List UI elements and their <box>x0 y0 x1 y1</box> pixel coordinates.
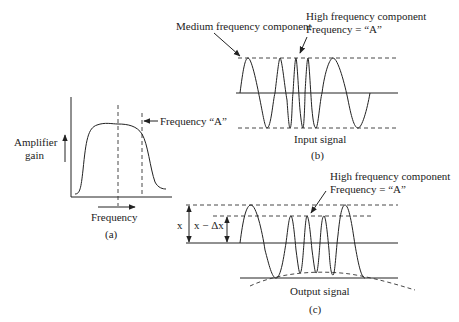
high-frequency-label-c-2: Frequency = “A” <box>330 183 406 195</box>
x-minus-delta-x-label: x − Δx <box>194 219 224 231</box>
x-label: x <box>177 219 183 231</box>
gain-curve <box>75 123 166 194</box>
panel-c-caption: (c) <box>309 303 322 316</box>
medium-frequency-label: Medium frequency component <box>176 20 312 32</box>
high-frequency-label-b-2: Frequency = “A” <box>306 23 382 35</box>
panel-b-caption: (b) <box>311 149 324 162</box>
panel-b-input-signal <box>214 33 398 128</box>
high-frequency-label-c-1: High frequency component <box>330 170 450 182</box>
input-signal-label: Input signal <box>294 133 346 145</box>
high-component-arrow-c-icon <box>311 191 326 213</box>
frequency-a-label: Frequency “A” <box>160 115 227 127</box>
amplifier-gain-label-1: Amplifier <box>14 136 58 148</box>
frequency-axis-label: Frequency <box>91 211 138 223</box>
high-frequency-label-b-1: High frequency component <box>306 10 426 22</box>
panel-c-output-signal <box>186 191 415 290</box>
amplifier-gain-label-2: gain <box>25 149 44 161</box>
output-signal-label: Output signal <box>290 285 350 297</box>
panel-a-caption: (a) <box>105 228 118 241</box>
medium-component-arrow-icon <box>214 33 240 56</box>
high-component-arrow-icon <box>300 37 307 53</box>
amplifier-frequency-diagram: Frequency “A” Amplifier gain Frequency (… <box>0 0 459 322</box>
panel-a-gain-curve <box>65 97 172 207</box>
